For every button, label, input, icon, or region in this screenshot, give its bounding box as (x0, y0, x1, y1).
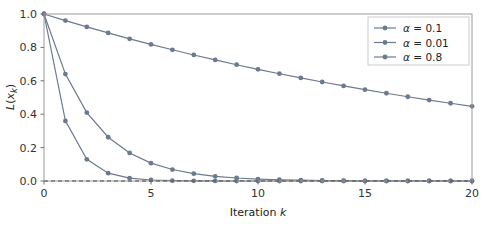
data-point-marker (84, 25, 89, 30)
decay-curve-plot: 05101520 0.00.20.40.60.81.0 Iteration k … (0, 0, 487, 229)
data-point-marker (384, 91, 389, 96)
x-tick-label: 10 (251, 187, 265, 200)
y-axis-ticks: 0.00.20.40.60.81.0 (20, 8, 45, 188)
data-point-marker (341, 84, 346, 89)
x-tick-label: 15 (358, 187, 372, 200)
legend-marker-icon (383, 40, 388, 45)
legend-marker-icon (383, 26, 388, 31)
data-point-marker (170, 47, 175, 52)
data-point-marker (106, 171, 111, 176)
data-point-marker (106, 135, 111, 140)
y-axis-label: L(xk) (4, 84, 19, 110)
x-tick-label: 5 (148, 187, 155, 200)
legend-label: α = 0.8 (403, 51, 442, 63)
legend: α = 0.1α = 0.01α = 0.8 (368, 17, 469, 65)
y-tick-label: 0.4 (20, 108, 38, 121)
x-axis-ticks: 05101520 (41, 181, 480, 200)
data-point-marker (320, 80, 325, 85)
data-point-marker (191, 171, 196, 176)
y-tick-label: 0.0 (20, 175, 38, 188)
data-point-marker (427, 98, 432, 103)
data-point-marker (63, 18, 68, 23)
y-tick-label: 0.2 (20, 142, 38, 155)
data-point-marker (213, 58, 218, 63)
data-point-marker (63, 72, 68, 77)
legend-label: α = 0.01 (403, 37, 449, 49)
data-point-marker (127, 36, 132, 41)
data-point-marker (191, 53, 196, 58)
data-point-marker (127, 151, 132, 156)
data-point-marker (63, 118, 68, 123)
data-point-marker (149, 42, 154, 47)
chart-figure: 05101520 0.00.20.40.60.81.0 Iteration k … (0, 0, 487, 229)
y-tick-label: 0.8 (20, 41, 38, 54)
data-point-marker (298, 76, 303, 81)
data-point-marker (127, 176, 132, 181)
data-point-marker (106, 31, 111, 36)
data-point-marker (84, 110, 89, 115)
legend-marker-icon (383, 55, 388, 60)
y-tick-label: 0.6 (20, 75, 38, 88)
data-point-marker (405, 94, 410, 99)
data-point-marker (277, 71, 282, 76)
legend-items: α = 0.1α = 0.01α = 0.8 (374, 22, 449, 63)
data-point-marker (84, 157, 89, 162)
data-point-marker (234, 62, 239, 67)
data-point-marker (149, 161, 154, 166)
legend-label: α = 0.1 (403, 22, 442, 34)
x-tick-label: 20 (465, 187, 479, 200)
x-tick-label: 0 (41, 187, 48, 200)
data-point-marker (256, 67, 261, 72)
y-tick-label: 1.0 (20, 8, 38, 21)
data-point-marker (448, 101, 453, 106)
data-point-marker (363, 87, 368, 92)
x-axis-label: Iteration k (230, 206, 287, 219)
data-point-marker (213, 174, 218, 179)
data-point-marker (170, 167, 175, 172)
